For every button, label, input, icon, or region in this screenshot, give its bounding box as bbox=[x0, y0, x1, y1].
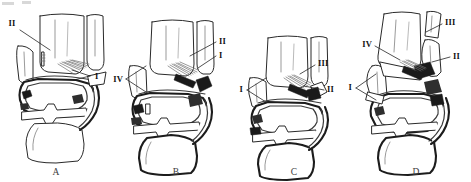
panel-label-a: A bbox=[53, 167, 60, 177]
callout-label: III bbox=[445, 17, 456, 27]
callout-label: I bbox=[95, 71, 99, 81]
callout-label: II bbox=[453, 51, 461, 61]
figure-canvas: II I II I IV III II I III II bbox=[0, 0, 471, 182]
callout-label: II bbox=[327, 84, 335, 94]
panel-B-drawing bbox=[129, 20, 214, 175]
panel-D-drawing bbox=[366, 11, 449, 175]
scan-artifact bbox=[22, 1, 31, 4]
callout-label: II bbox=[219, 36, 227, 46]
panel-label-c: C bbox=[291, 167, 297, 177]
callout-label: IV bbox=[113, 74, 124, 84]
callout-label: III bbox=[318, 58, 329, 68]
callout-label: II bbox=[8, 18, 16, 28]
scan-artifact bbox=[2, 2, 14, 5]
panel-C-drawing bbox=[249, 36, 328, 180]
panel-label-b: B bbox=[173, 167, 179, 177]
callout-label: I bbox=[219, 50, 223, 60]
callout-label: IV bbox=[362, 39, 373, 49]
callout-label: I bbox=[239, 84, 243, 94]
callout-label: I bbox=[348, 82, 352, 92]
panel-label-d: D bbox=[413, 167, 420, 177]
anatomical-figure: II I II I IV III II I III II bbox=[0, 0, 471, 182]
